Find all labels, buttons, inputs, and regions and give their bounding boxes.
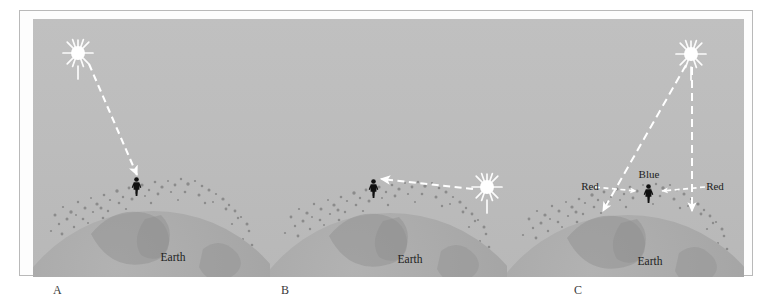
figure-root: Earth xyxy=(0,0,773,304)
ray-label-blue: Blue xyxy=(639,168,660,180)
earth-label-a: Earth xyxy=(161,251,186,263)
illustration-canvas: Earth xyxy=(33,19,744,277)
earth-label-c: Earth xyxy=(638,255,663,267)
earth-label-b: Earth xyxy=(398,253,423,265)
ray-label-red-left: Red xyxy=(581,180,599,192)
illustration-svg: Earth xyxy=(33,19,744,277)
panel-letter-c: C xyxy=(574,283,582,298)
ray-label-red-right: Red xyxy=(706,180,724,192)
panel-letter-b: B xyxy=(281,283,289,298)
panel-letter-a: A xyxy=(53,283,62,298)
